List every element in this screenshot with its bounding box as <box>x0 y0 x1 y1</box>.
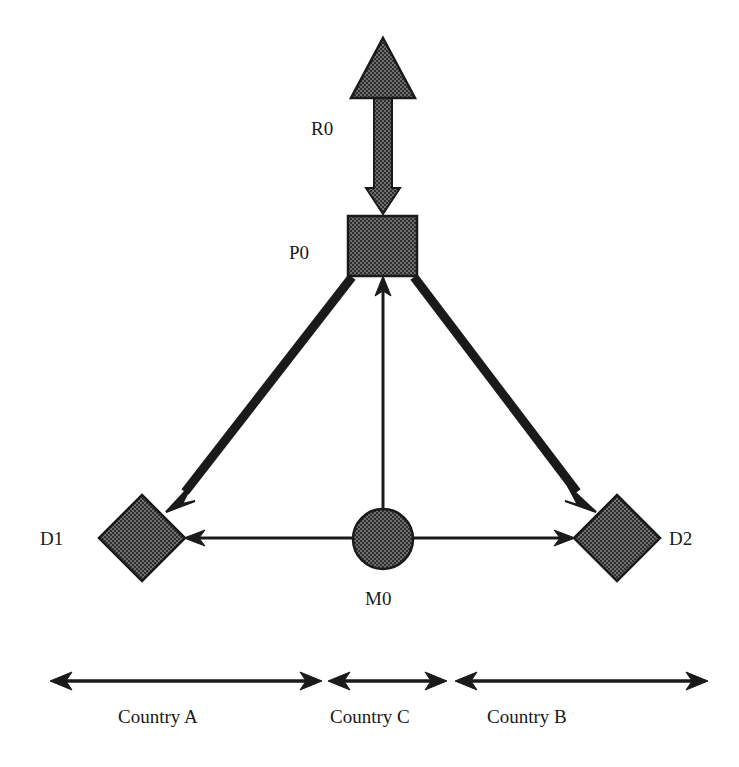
node-label-p0: P0 <box>289 243 309 262</box>
span-country-c <box>328 672 447 690</box>
node-m0-circle <box>353 509 413 569</box>
node-label-r0: R0 <box>311 119 333 138</box>
edge-p0-to-d1 <box>166 277 352 512</box>
section-label-country-b: Country B <box>487 707 567 726</box>
span-country-b <box>455 672 708 690</box>
node-label-d2: D2 <box>669 529 692 548</box>
node-label-m0: M0 <box>365 589 391 608</box>
edge-m0-to-d1 <box>184 530 356 546</box>
edge-m0-to-p0 <box>375 276 391 512</box>
edge-r0-to-p0 <box>366 96 400 214</box>
node-p0-square <box>348 216 417 276</box>
node-r0-triangle <box>351 38 415 98</box>
section-label-country-c: Country C <box>330 707 410 726</box>
node-label-d1: D1 <box>40 529 63 548</box>
diagram-vector-layer <box>0 0 739 767</box>
span-country-a <box>50 672 322 690</box>
edge-p0-to-d2 <box>414 277 596 512</box>
section-label-country-a: Country A <box>118 707 198 726</box>
diagram-canvas: R0 P0 D1 D2 M0 Country A Country C Count… <box>0 0 739 767</box>
edge-m0-to-d2 <box>410 530 575 546</box>
